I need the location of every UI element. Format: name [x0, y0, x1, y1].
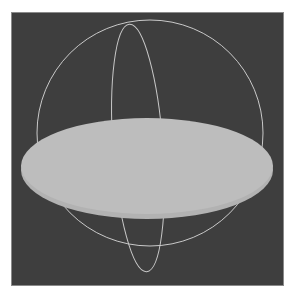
- disc-top-surface: [21, 118, 273, 214]
- oblate-disc: [21, 118, 273, 219]
- page: 3D viewport rendering of an oblate ellip…: [0, 0, 297, 301]
- scene-canvas: [12, 13, 283, 285]
- 3d-viewport[interactable]: 3D viewport rendering of an oblate ellip…: [12, 13, 283, 285]
